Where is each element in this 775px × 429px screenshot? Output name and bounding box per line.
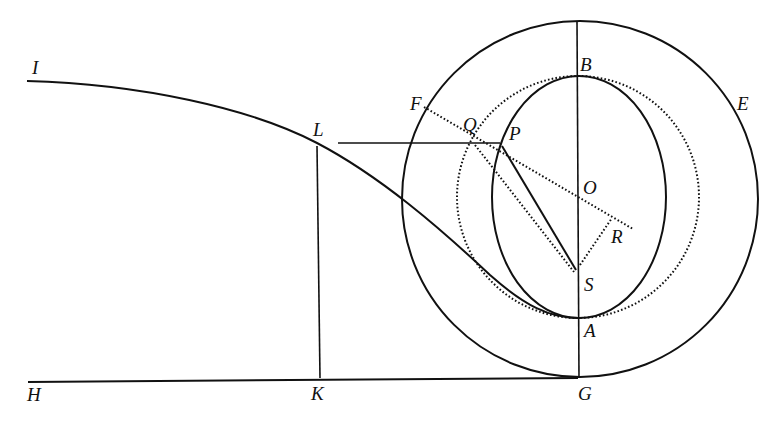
- label-Q: Q: [463, 114, 477, 135]
- line-FR: [424, 107, 633, 229]
- label-K: K: [310, 383, 325, 404]
- label-B: B: [580, 54, 592, 75]
- line-PS: [502, 146, 576, 270]
- label-A: A: [582, 320, 596, 341]
- line-QS: [475, 145, 574, 272]
- label-R: R: [610, 226, 623, 247]
- curve-IA: [27, 81, 578, 318]
- label-F: F: [409, 93, 422, 114]
- label-H: H: [26, 384, 42, 405]
- label-I: I: [31, 57, 40, 78]
- label-L: L: [312, 119, 324, 140]
- label-E: E: [736, 93, 749, 114]
- line-LK: [317, 146, 320, 378]
- axis-BG: [577, 21, 579, 378]
- line-SR: [580, 218, 612, 265]
- orbit-diagram: I L H K G A S R O B F Q P E: [0, 0, 775, 429]
- label-G: G: [578, 383, 592, 404]
- label-P: P: [508, 123, 521, 144]
- label-O: O: [583, 177, 597, 198]
- line-HG: [28, 378, 578, 382]
- label-S: S: [584, 274, 594, 295]
